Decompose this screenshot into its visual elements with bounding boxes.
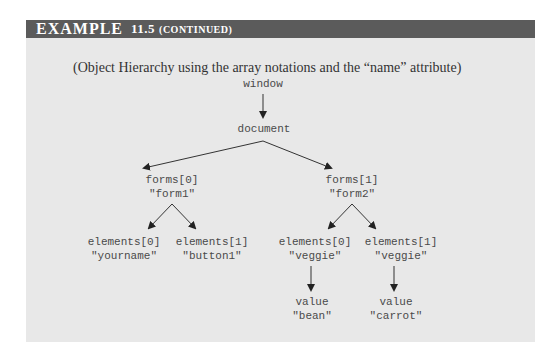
form1-elements-1-name: "button1" [176,249,249,263]
forms-1-index: forms[1] [326,173,379,187]
value-bean-label: value [292,295,332,309]
node-forms-1: forms[1] "form2" [326,173,379,201]
node-form2-elements-1: elements[1] "veggie" [365,235,438,263]
form2-elements-0-index: elements[0] [279,235,352,249]
form1-elements-1-index: elements[1] [176,235,249,249]
arrow-form2-el0 [329,204,352,228]
node-form1-elements-0: elements[0] "yourname" [88,235,161,263]
arrow-document-forms0 [144,141,263,168]
node-window: window [243,77,283,91]
node-document: document [238,122,291,136]
form2-elements-1-name: "veggie" [365,249,438,263]
form1-elements-0-index: elements[0] [88,235,161,249]
arrow-form1-el0 [149,204,172,228]
arrow-form1-el1 [172,204,195,228]
form1-elements-0-name: "yourname" [88,249,161,263]
forms-0-index: forms[0] [146,173,199,187]
node-forms-0: forms[0] "form1" [146,173,199,201]
form2-elements-0-name: "veggie" [279,249,352,263]
forms-0-name: "form1" [146,187,199,201]
arrow-document-forms1 [263,141,331,168]
form2-elements-1-index: elements[1] [365,235,438,249]
value-carrot-value: "carrot" [370,309,423,323]
node-form1-elements-1: elements[1] "button1" [176,235,249,263]
forms-1-name: "form2" [326,187,379,201]
value-bean-value: "bean" [292,309,332,323]
value-carrot-label: value [370,295,423,309]
arrow-form2-el1 [352,204,375,228]
hierarchy-arrows [0,0,560,363]
node-form2-elements-0: elements[0] "veggie" [279,235,352,263]
node-value-carrot: value "carrot" [370,295,423,323]
node-value-bean: value "bean" [292,295,332,323]
